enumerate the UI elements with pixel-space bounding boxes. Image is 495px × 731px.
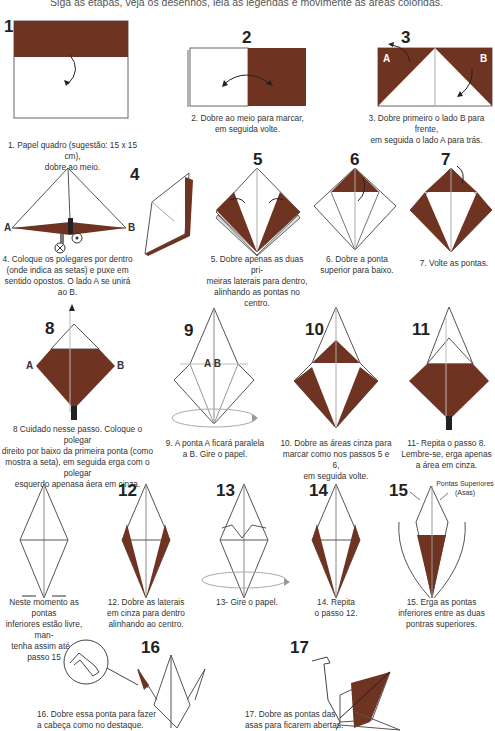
- caption-line: 17. Dobre as pontas das: [245, 709, 355, 720]
- caption-line: asas para ficarem abertas.: [245, 720, 355, 731]
- step-caption: 17. Dobre as pontas das asas para ficare…: [245, 709, 355, 731]
